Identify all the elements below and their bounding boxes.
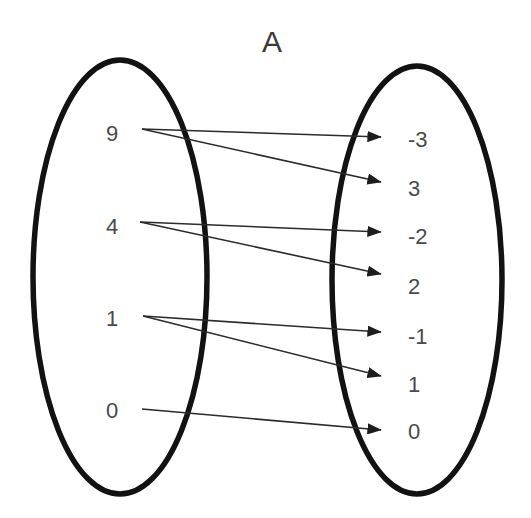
codomain-element-2: 2 (408, 274, 420, 299)
diagram-canvas: A 9410 -33-22-110 (0, 0, 531, 518)
domain-element-0: 0 (106, 398, 118, 423)
codomain-element-0: 0 (408, 419, 420, 444)
domain-element-labels: 9410 (106, 121, 118, 423)
codomain-element--2: -2 (408, 224, 428, 249)
codomain-element-3: 3 (408, 176, 420, 201)
mapping-arrow-0-to-0 (142, 409, 381, 430)
codomain-element--3: -3 (408, 127, 428, 152)
mapping-arrow-1-to-1 (143, 316, 381, 376)
domain-element-1: 1 (106, 306, 118, 331)
codomain-element-1: 1 (408, 372, 420, 397)
domain-element-9: 9 (106, 121, 118, 146)
domain-element-4: 4 (106, 214, 118, 239)
codomain-element-labels: -33-22-110 (408, 127, 428, 444)
mapping-arrow-1-to--1 (143, 316, 381, 332)
page-title: A (262, 25, 282, 58)
mapping-diagram: A 9410 -33-22-110 (0, 0, 531, 518)
domain-ellipse (33, 60, 207, 494)
mapping-arrow-9-to--3 (142, 129, 381, 137)
codomain-element--1: -1 (408, 324, 428, 349)
